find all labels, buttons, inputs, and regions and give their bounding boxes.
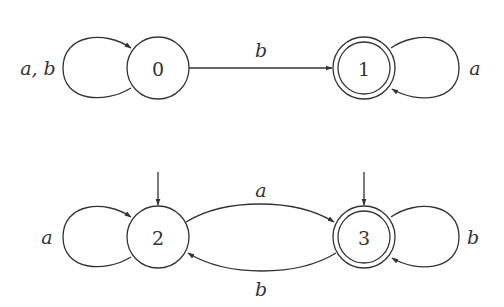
edge-label-3-to-3: b <box>467 226 479 248</box>
edge-label-2-to-2: a <box>41 226 52 248</box>
edge-1-to-1 <box>391 37 459 97</box>
state-2-label: 2 <box>152 227 164 249</box>
state-2-initial: 2 <box>127 206 189 268</box>
edge-0-to-0 <box>63 37 131 97</box>
state-1-label: 1 <box>358 58 370 80</box>
automata-diagram: a, b b a 0 1 a a b b <box>0 0 504 307</box>
automaton-bottom: a a b b 2 3 <box>41 172 479 300</box>
edge-3-to-3 <box>391 206 459 266</box>
edge-label-0-to-0: a, b <box>20 57 56 79</box>
state-3-initial-accepting: 3 <box>333 206 395 268</box>
state-1-accepting: 1 <box>333 37 395 99</box>
edge-label-1-to-1: a <box>469 57 480 79</box>
edge-2-to-3 <box>186 204 334 222</box>
automaton-top: a, b b a 0 1 <box>20 37 480 99</box>
edge-label-2-to-3: a <box>255 179 266 201</box>
edge-2-to-2 <box>63 206 131 266</box>
state-3-label: 3 <box>358 227 370 249</box>
state-0: 0 <box>127 37 189 99</box>
edge-label-0-to-1: b <box>255 39 267 61</box>
edge-label-3-to-2: b <box>255 278 267 300</box>
edge-3-to-2 <box>188 253 336 271</box>
state-0-label: 0 <box>152 58 164 80</box>
